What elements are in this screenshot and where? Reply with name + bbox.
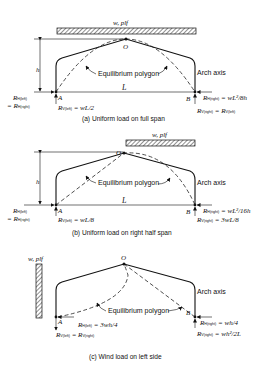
- support-a-label: A: [57, 207, 63, 215]
- equilibrium-label: Equilibrium polygon: [108, 307, 169, 315]
- right-h-reaction: RH(right) = wh/4: [199, 319, 239, 327]
- right-v-reaction: RV(right) = 3wL/8: [196, 216, 239, 224]
- half-span-load-bar: [126, 140, 195, 146]
- equilibrium-pointer-right: [158, 178, 170, 184]
- left-v-reaction: RV(left) = RV(right): [55, 331, 94, 339]
- arch-axis-label: Arch axis: [197, 288, 226, 295]
- crown-hinge: [123, 263, 126, 266]
- arch-load-diagram: w, plf h O Equilibrium polygon Arch axis…: [0, 0, 278, 369]
- right-h-reaction: RH(right) = wL²/8h: [202, 94, 248, 102]
- span-label: L: [121, 83, 127, 92]
- height-label: h: [36, 178, 40, 186]
- crown-label: O: [121, 254, 126, 262]
- equilibrium-pointer-left: [86, 66, 96, 74]
- left-h-reaction: RH(left): [12, 207, 27, 215]
- caption-b: (b) Uniform load on right half span: [72, 229, 172, 237]
- crown-hinge: [125, 38, 128, 41]
- panel-c: w, plf O Equilibrium polygon Arch axis A…: [28, 254, 241, 361]
- equilibrium-pointer-right: [168, 307, 182, 311]
- arch-axis-label: Arch axis: [197, 179, 226, 186]
- right-v-reaction: RV(right) = RV(left): [196, 107, 235, 115]
- uniform-load-bar: [57, 28, 196, 34]
- support-b-label: B: [186, 95, 191, 103]
- load-label: w, plf: [28, 255, 44, 263]
- equilibrium-label: Equilibrium polygon: [98, 70, 159, 78]
- equilibrium-label: Equilibrium polygon: [98, 179, 159, 187]
- crown-hinge: [123, 152, 126, 155]
- crown-label: O: [116, 149, 121, 157]
- equilibrium-pointer-left: [86, 176, 96, 183]
- left-v-reaction: RV(left) = wL/2: [57, 104, 95, 112]
- wind-load-bar: [36, 264, 42, 318]
- support-a-label: A: [57, 318, 63, 326]
- panel-a: w, plf h O Equilibrium polygon Arch axis…: [7, 19, 248, 123]
- arch-axis-label: Arch axis: [197, 69, 226, 76]
- load-label: w, plf: [152, 131, 168, 139]
- left-h-reaction-equal: = RH(right): [7, 102, 30, 110]
- support-b-label: B: [186, 208, 191, 216]
- left-h-reaction: RH(left) = 3wh/4: [77, 321, 118, 329]
- support-a-label: A: [57, 94, 63, 102]
- right-v-reaction: RV(right) = wh²/2L: [196, 330, 241, 338]
- load-label: w, plf: [113, 19, 129, 27]
- support-b-label: B: [186, 309, 191, 317]
- equilibrium-pointer-left: [97, 303, 106, 311]
- right-h-reaction: RH(right) = wL²/16h: [202, 207, 251, 215]
- left-v-reaction: RV(left) = wL/8: [57, 216, 95, 224]
- crown-label: O: [123, 43, 128, 51]
- equilibrium-pointer-right: [158, 66, 167, 74]
- span-label: L: [121, 196, 127, 205]
- panel-b: w, plf h O Equilibrium polygon Arch axis…: [7, 131, 251, 237]
- left-h-reaction-equal: = RH(right): [7, 215, 30, 223]
- height-label: h: [36, 66, 40, 74]
- left-h-reaction: RH(left): [12, 94, 27, 102]
- caption-c: (c) Wind load on left side: [89, 353, 162, 361]
- caption-a: (a) Uniform load on full span: [82, 115, 165, 123]
